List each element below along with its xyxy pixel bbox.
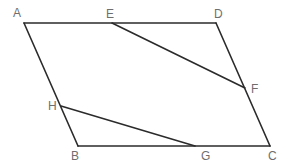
edge-d-c [216, 23, 270, 146]
label-a: A [13, 6, 21, 20]
label-c: C [268, 149, 277, 163]
diagram-edges [24, 23, 270, 146]
label-g: G [201, 149, 210, 163]
label-h: H [48, 99, 57, 113]
label-d: D [214, 7, 223, 21]
segment-h-g [61, 106, 195, 146]
label-b: B [71, 149, 79, 163]
parallelogram-diagram: A E D F H B G C [0, 0, 293, 168]
label-f: F [251, 82, 258, 96]
segment-e-f [112, 23, 245, 88]
edge-b-a [24, 23, 78, 146]
label-e: E [106, 7, 114, 21]
